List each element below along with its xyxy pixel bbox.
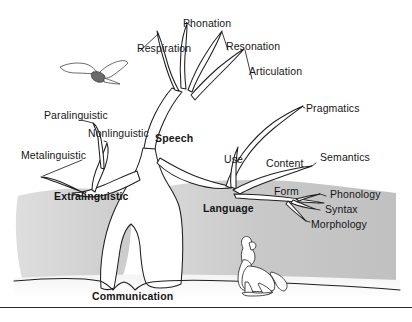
label-form: Form bbox=[274, 186, 299, 197]
leader-pragmatics bbox=[303, 107, 305, 108]
leader-metalinguistic bbox=[43, 160, 82, 176]
phonation-branch bbox=[180, 24, 187, 89]
label-extralinguistic: Extralinguistic bbox=[54, 191, 129, 202]
label-articulation: Articulation bbox=[249, 66, 302, 77]
communication-tree-figure: Respiration Phonation Resonation Articul… bbox=[0, 0, 412, 322]
bird-in-flight-illustration bbox=[60, 61, 128, 84]
bird-tail bbox=[104, 78, 120, 84]
leader-semantics bbox=[312, 163, 316, 166]
label-communication: Communication bbox=[92, 291, 173, 302]
label-pragmatics: Pragmatics bbox=[306, 103, 360, 114]
label-phonology: Phonology bbox=[330, 189, 381, 200]
label-language: Language bbox=[203, 203, 254, 214]
label-metalinguistic: Metalinguistic bbox=[21, 150, 86, 161]
label-phonation: Phonation bbox=[183, 18, 231, 29]
label-speech: Speech bbox=[155, 133, 193, 144]
label-resonation: Resonation bbox=[226, 41, 280, 52]
label-syntax: Syntax bbox=[325, 204, 358, 215]
label-paralinguistic: Paralinguistic bbox=[44, 110, 108, 121]
respiration-branch bbox=[157, 31, 179, 91]
label-respiration: Respiration bbox=[137, 43, 191, 54]
label-use: Use bbox=[224, 154, 243, 165]
label-nonlinguistic: Nonlinguistic bbox=[88, 128, 149, 139]
figure-bottom-rule bbox=[0, 307, 412, 308]
label-morphology: Morphology bbox=[311, 219, 367, 230]
label-content: Content bbox=[266, 158, 303, 169]
label-semantics: Semantics bbox=[320, 152, 370, 163]
leader-nonlinguistic bbox=[104, 141, 107, 142]
